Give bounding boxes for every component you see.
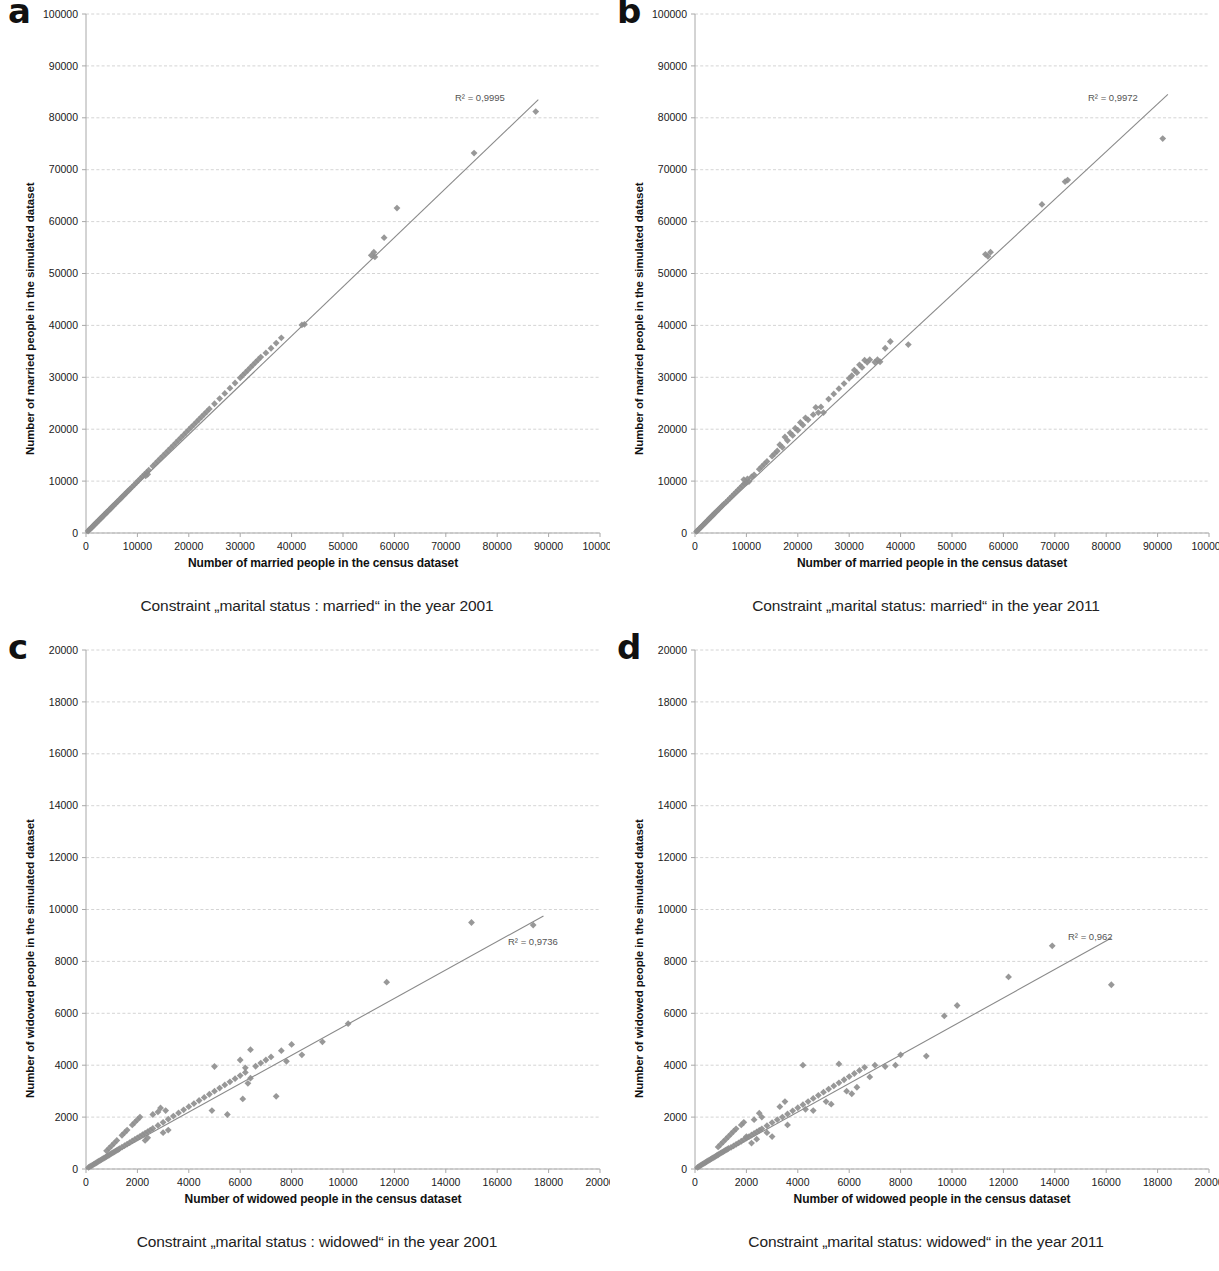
x-tick-label: 12000 [989, 1176, 1018, 1188]
x-tick-label: 20000 [174, 540, 203, 552]
y-tick-label: 20000 [658, 423, 687, 435]
panel-b: b 01000020000300004000050000600007000080… [609, 0, 1219, 636]
x-tick-label: 50000 [328, 540, 357, 552]
data-point-marker [751, 1116, 758, 1123]
y-tick-label: 40000 [658, 319, 687, 331]
y-axis-label-d: Number of widowed people in the simulate… [633, 819, 645, 1098]
y-tick-label: 0 [681, 1163, 687, 1175]
y-tick-label: 8000 [55, 955, 79, 967]
data-point-marker [820, 409, 827, 416]
y-tick-label: 20000 [49, 644, 78, 656]
x-tick-label: 4000 [786, 1176, 810, 1188]
x-tick-label: 16000 [483, 1176, 512, 1188]
y-axis-label-b: Number of married people in the simulate… [633, 183, 645, 455]
data-point-marker [810, 1107, 817, 1114]
y-tick-label: 10000 [658, 903, 687, 915]
x-tick-label: 20000 [585, 1176, 610, 1188]
data-point-marker [191, 1100, 198, 1107]
data-point-marker [381, 234, 388, 241]
data-point-marker [836, 1079, 843, 1086]
scatter-chart-a: 0100002000030000400005000060000700008000… [0, 0, 610, 560]
data-point-marker [854, 1084, 861, 1091]
y-tick-label: 20000 [658, 644, 687, 656]
data-point-marker [216, 1085, 223, 1092]
y-tick-label: 2000 [664, 1111, 688, 1123]
y-tick-label: 40000 [49, 319, 78, 331]
panel-caption-d: Constraint „marital status: widowed“ in … [621, 1233, 1219, 1251]
data-point-marker [887, 338, 894, 345]
x-tick-label: 30000 [835, 540, 864, 552]
data-point-marker [841, 1076, 848, 1083]
y-tick-label: 6000 [55, 1007, 79, 1019]
data-point-marker [196, 1097, 203, 1104]
data-point-marker [232, 1075, 239, 1082]
x-tick-label: 10000 [732, 540, 761, 552]
x-tick-label: 6000 [838, 1176, 862, 1188]
panel-d: d 02000400060008000100001200014000160001… [609, 636, 1219, 1271]
data-point-marker [820, 1089, 827, 1096]
y-tick-label: 20000 [49, 423, 78, 435]
data-point-marker [221, 390, 228, 397]
figure-four-scatter-panels: a 01000020000300004000050000600007000080… [0, 0, 1219, 1271]
data-point-marker [468, 919, 475, 926]
panel-a: a 01000020000300004000050000600007000080… [0, 0, 610, 636]
x-tick-label: 80000 [1092, 540, 1121, 552]
y-tick-label: 70000 [49, 163, 78, 175]
x-tick-label: 18000 [534, 1176, 563, 1188]
y-tick-label: 4000 [664, 1059, 688, 1071]
data-point-marker [748, 1140, 755, 1147]
panel-caption-c: Constraint „marital status : widowed“ in… [12, 1233, 622, 1251]
data-point-marker [170, 1113, 177, 1120]
x-tick-label: 70000 [1040, 540, 1069, 552]
x-tick-label: 60000 [380, 540, 409, 552]
panel-c: c 02000400060008000100001200014000160001… [0, 636, 610, 1271]
y-tick-label: 16000 [658, 747, 687, 759]
data-point-marker [471, 150, 478, 157]
data-point-marker [1049, 942, 1056, 949]
x-axis-label-a: Number of married people in the census d… [18, 556, 628, 570]
x-tick-label: 70000 [431, 540, 460, 552]
data-point-marker [892, 1062, 899, 1069]
data-point-marker [882, 345, 889, 352]
panel-caption-a: Constraint „marital status : married“ in… [12, 597, 622, 615]
plot-area-c: 0200040006000800010000120001400016000180… [0, 636, 610, 1196]
data-point-marker [1005, 974, 1012, 981]
data-point-marker [841, 380, 848, 387]
data-point-marker [905, 341, 912, 348]
data-point-marker [784, 1121, 791, 1128]
data-point-marker [221, 1082, 228, 1089]
x-tick-label: 20000 [783, 540, 812, 552]
data-point-marker [753, 1136, 760, 1143]
x-tick-label: 18000 [1143, 1176, 1172, 1188]
y-tick-label: 14000 [658, 799, 687, 811]
y-tick-label: 6000 [664, 1007, 688, 1019]
y-axis-label-a: Number of married people in the simulate… [24, 183, 36, 455]
x-tick-label: 6000 [229, 1176, 253, 1188]
x-axis-label-d: Number of widowed people in the census d… [627, 1192, 1219, 1206]
data-point-marker [825, 396, 832, 403]
data-point-marker [216, 395, 223, 402]
r-squared-annotation: R² = 0,9972 [1088, 92, 1138, 103]
x-tick-label: 100000 [1191, 540, 1219, 552]
y-tick-label: 10000 [49, 475, 78, 487]
data-point-marker [830, 1083, 837, 1090]
y-tick-label: 8000 [664, 955, 688, 967]
data-point-marker [201, 1094, 208, 1101]
y-tick-label: 60000 [49, 215, 78, 227]
scatter-chart-b: 0100002000030000400005000060000700008000… [609, 0, 1219, 560]
x-tick-label: 0 [83, 540, 89, 552]
data-point-marker [856, 1067, 863, 1074]
x-tick-label: 0 [692, 1176, 698, 1188]
x-tick-label: 4000 [177, 1176, 201, 1188]
x-tick-label: 14000 [431, 1176, 460, 1188]
r-squared-annotation: R² = 0,962 [1068, 931, 1113, 942]
y-tick-label: 80000 [49, 111, 78, 123]
data-point-marker [866, 1073, 873, 1080]
data-point-marker [185, 1103, 192, 1110]
data-point-marker [206, 1091, 213, 1098]
data-point-marker [227, 385, 234, 392]
trend-line [86, 916, 543, 1169]
data-point-marker [263, 1057, 270, 1064]
y-tick-label: 50000 [658, 267, 687, 279]
data-point-marker [224, 1111, 231, 1118]
